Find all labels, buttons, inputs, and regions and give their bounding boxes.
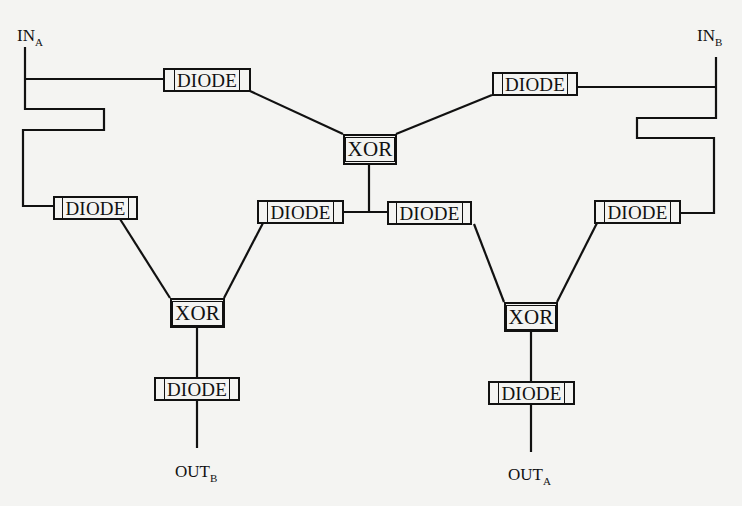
input-a-subscript: A: [35, 36, 43, 48]
xor-label: XOR: [508, 307, 555, 328]
diode-center-left: DIODE: [257, 200, 344, 224]
input-label-a: INA: [17, 27, 43, 48]
input-b-subscript: B: [715, 36, 722, 48]
diode-top-right: DIODE: [492, 72, 578, 96]
wire-center-right-to-xor-right: [474, 224, 504, 302]
wire-center-left-to-xor-left: [224, 223, 263, 298]
wire-top-left-diode-to-xor: [250, 91, 343, 134]
diode-label: DIODE: [504, 75, 566, 94]
xor-right: XOR: [504, 302, 558, 332]
wire-top-right-diode-to-xor: [396, 95, 492, 134]
diode-label: DIODE: [176, 71, 238, 90]
output-a-subscript: A: [543, 475, 551, 487]
diode-mid-left: DIODE: [53, 196, 138, 220]
input-b-text: IN: [697, 26, 715, 45]
output-a-text: OUT: [508, 465, 543, 484]
output-label-b: OUTB: [175, 463, 217, 484]
diode-label: DIODE: [269, 203, 331, 222]
xor-label: XOR: [174, 303, 221, 324]
output-b-subscript: B: [210, 472, 217, 484]
wire-in-b-trunk: [637, 57, 716, 213]
diode-bottom-right: DIODE: [488, 381, 575, 405]
input-a-text: IN: [17, 26, 35, 45]
diode-label: DIODE: [64, 199, 126, 218]
diode-bottom-left: DIODE: [154, 377, 240, 401]
diode-center-right: DIODE: [387, 201, 472, 225]
diode-label: DIODE: [166, 380, 228, 399]
diode-label: DIODE: [500, 384, 562, 403]
diode-label: DIODE: [398, 204, 460, 223]
wire-in-a-trunk: [23, 47, 104, 206]
diode-top-left: DIODE: [163, 68, 251, 92]
xor-left: XOR: [170, 298, 225, 328]
input-label-b: INB: [697, 27, 722, 48]
diode-xor-network-diagram: INA INB OUTB OUTA DIODE DIODE XOR DIODE …: [0, 0, 742, 506]
xor-center: XOR: [343, 134, 397, 165]
output-b-text: OUT: [175, 462, 210, 481]
diode-mid-right: DIODE: [594, 200, 681, 224]
xor-label: XOR: [347, 139, 394, 160]
wire-mid-left-to-xor-left: [120, 219, 170, 298]
output-label-a: OUTA: [508, 466, 551, 487]
diode-label: DIODE: [606, 203, 668, 222]
wires: [0, 0, 742, 506]
wire-mid-right-to-xor-right: [557, 223, 597, 302]
